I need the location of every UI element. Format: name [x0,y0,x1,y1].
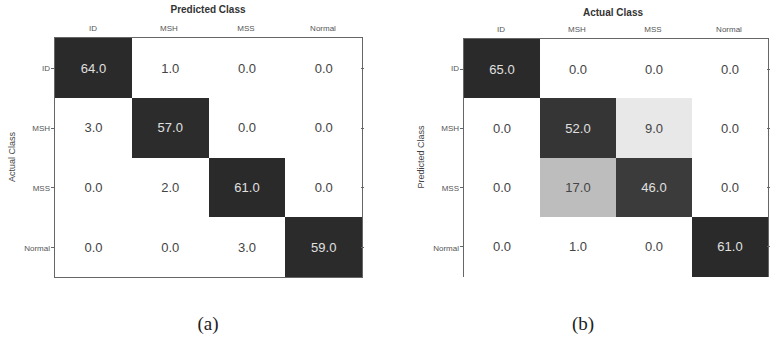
matrix-cell: 59.0 [285,217,362,277]
matrix-b-grid: 65.00.00.00.00.052.09.00.00.017.046.00.0… [463,38,769,277]
matrix-cell: 2.0 [132,158,209,218]
matrix-cell: 9.0 [616,98,692,158]
matrix-cell: 0.0 [464,217,540,277]
matrix-b-title: Actual Class [583,7,643,18]
axis-tick [460,69,464,70]
matrix-cell: 0.0 [285,38,362,98]
matrix-cell: 0.0 [55,158,132,218]
axis-tick [460,128,464,129]
matrix-b-col-label-id: ID [497,25,505,34]
matrix-cell: 0.0 [285,98,362,158]
matrix-cell: 0.0 [464,158,540,218]
matrix-cell: 65.0 [464,39,540,99]
axis-tick [767,128,770,129]
matrix-cell: 64.0 [55,38,132,98]
matrix-cell: 0.0 [132,217,209,277]
axis-tick [460,246,464,247]
matrix-cell: 1.0 [132,38,209,98]
matrix-b-col-label-mss: MSS [644,25,661,34]
axis-tick [767,69,770,70]
matrix-cell: 52.0 [540,98,616,158]
axis-tick [361,68,364,69]
matrix-a-row-label-mss: MSS [33,184,50,193]
matrix-a-row-label-id: ID [42,64,50,73]
axis-tick [460,187,464,188]
matrix-b-row-label-mss: MSS [442,184,459,193]
matrix-cell: 3.0 [55,98,132,158]
matrix-cell: 57.0 [132,98,209,158]
matrix-a-col-label-mss: MSS [237,24,254,33]
matrix-b-row-label-normal: Normal [433,244,459,253]
matrix-cell: 0.0 [616,39,692,99]
axis-tick [51,128,55,129]
matrix-cell: 46.0 [616,158,692,218]
axis-tick [767,187,770,188]
axis-tick [361,128,364,129]
matrix-a-col-label-msh: MSH [160,24,178,33]
matrix-cell: 0.0 [692,39,768,99]
matrix-a-row-label-msh: MSH [32,124,50,133]
matrix-cell: 0.0 [692,98,768,158]
axis-tick [767,246,770,247]
matrix-b-row-label-msh: MSH [441,124,459,133]
matrix-cell: 0.0 [285,158,362,218]
axis-tick [51,187,55,188]
matrix-cell: 0.0 [209,98,286,158]
matrix-cell: 0.0 [55,217,132,277]
matrix-b-row-label-id: ID [451,64,459,73]
matrix-cell: 61.0 [692,217,768,277]
caption-a: (a) [197,313,218,335]
matrix-b-ylabel: Predicted Class [416,125,426,188]
matrix-cell: 17.0 [540,158,616,218]
axis-tick [51,247,55,248]
matrix-cell: 0.0 [464,98,540,158]
matrix-cell: 1.0 [540,217,616,277]
axis-tick [361,247,364,248]
matrix-cell: 0.0 [616,217,692,277]
matrix-a-title: Predicted Class [170,4,245,15]
matrix-cell: 0.0 [209,38,286,98]
matrix-a-col-label-normal: Normal [310,24,336,33]
matrix-b-col-label-normal: Normal [716,25,742,34]
axis-tick [361,187,364,188]
matrix-cell: 61.0 [209,158,286,218]
matrix-a-ylabel: Actual Class [7,132,17,182]
caption-b: (b) [572,313,594,335]
matrix-cell: 3.0 [209,217,286,277]
matrix-b-col-label-msh: MSH [568,25,586,34]
matrix-cell: 0.0 [540,39,616,99]
axis-tick [51,68,55,69]
matrix-a-row-label-normal: Normal [24,244,50,253]
matrix-a-grid: 64.01.00.00.03.057.00.00.00.02.061.00.00… [54,37,363,278]
matrix-a-col-label-id: ID [89,24,97,33]
matrix-cell: 0.0 [692,158,768,218]
